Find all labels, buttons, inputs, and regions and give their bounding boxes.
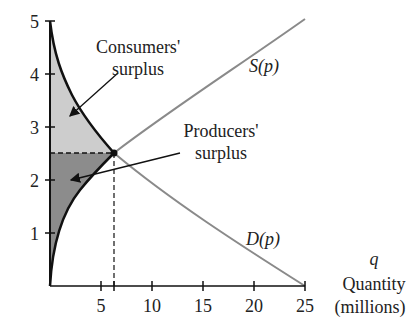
producers-surplus-label-2: surplus [195,143,247,163]
x-tick-5: 5 [97,296,106,316]
x-tick-25: 25 [296,296,314,316]
x-variable-label: q [370,249,379,269]
demand-label: D(p) [245,229,280,250]
x-axis-label-1: Quantity [343,274,406,294]
y-tick-2: 2 [30,171,39,191]
equilibrium-point [111,150,118,157]
x-tick-15: 15 [194,296,212,316]
y-tick-3: 3 [30,118,39,138]
x-tick-10: 10 [143,296,161,316]
x-tick-20: 20 [245,296,263,316]
y-tick-5: 5 [30,12,39,32]
y-tick-1: 1 [30,224,39,244]
consumers-surplus-arrow [70,73,118,116]
supply-label: S(p) [249,56,279,77]
consumers-surplus-label-1: Consumers' [96,37,180,57]
surplus-chart: 5 4 3 2 1 5 10 15 20 25 Consumers' surpl… [0,0,420,333]
producers-surplus-label-1: Producers' [183,121,258,141]
producers-surplus-region [50,153,114,286]
x-axis-label-2: (millions) [335,297,406,318]
y-tick-4: 4 [30,65,39,85]
demand-curve [114,153,305,286]
consumers-surplus-label-2: surplus [112,59,164,79]
